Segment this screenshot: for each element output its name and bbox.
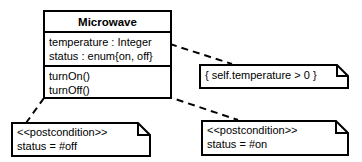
postcondition-on-body: status = #on bbox=[207, 137, 349, 151]
connector-turnoff-to-postcondition-off bbox=[26, 98, 44, 123]
uml-diagram-canvas: Microwave temperature : Integer status :… bbox=[0, 0, 362, 162]
constraint-text: { self.temperature > 0 } bbox=[199, 64, 349, 82]
postcondition-off-body: status = #off bbox=[17, 139, 151, 153]
class-attribute: status : enum{on, off} bbox=[49, 49, 170, 63]
postcondition-off-content: <<postcondition>> status = #off bbox=[11, 122, 151, 153]
class-operation: turnOn() bbox=[49, 69, 170, 83]
class-attribute: temperature : Integer bbox=[49, 35, 170, 49]
connector-attributes-to-constraint bbox=[170, 44, 232, 64]
postcondition-note-off[interactable]: <<postcondition>> status = #off bbox=[11, 122, 151, 157]
class-name-label: Microwave bbox=[45, 12, 170, 33]
class-operation: turnOff() bbox=[49, 83, 170, 97]
postcondition-on-stereotype: <<postcondition>> bbox=[207, 123, 349, 137]
postcondition-on-content: <<postcondition>> status = #on bbox=[201, 120, 349, 151]
constraint-note[interactable]: { self.temperature > 0 } bbox=[199, 64, 349, 89]
class-box-microwave[interactable]: Microwave temperature : Integer status :… bbox=[43, 10, 172, 99]
class-attributes-compartment: temperature : Integer status : enum{on, … bbox=[45, 33, 170, 67]
postcondition-note-on[interactable]: <<postcondition>> status = #on bbox=[201, 120, 349, 156]
class-operations-compartment: turnOn() turnOff() bbox=[45, 67, 170, 99]
postcondition-off-stereotype: <<postcondition>> bbox=[17, 125, 151, 139]
